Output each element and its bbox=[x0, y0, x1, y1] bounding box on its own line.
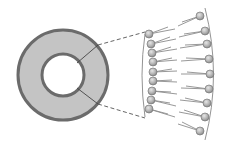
phospholipid-head bbox=[145, 30, 153, 38]
phospholipid-head bbox=[147, 96, 155, 104]
phospholipid-head bbox=[148, 49, 156, 57]
phospholipid-tails bbox=[149, 16, 210, 131]
phospholipid-head bbox=[201, 113, 209, 121]
phospholipid-head bbox=[203, 99, 211, 107]
inner-boundary-arc bbox=[142, 34, 145, 117]
diagram-canvas bbox=[0, 0, 228, 156]
phospholipid-head bbox=[205, 85, 213, 93]
inner-lumen bbox=[42, 54, 84, 96]
phospholipid-head bbox=[203, 40, 211, 48]
phospholipid-head bbox=[149, 68, 157, 76]
phospholipid-head bbox=[196, 12, 204, 20]
phospholipid-head bbox=[149, 77, 157, 85]
phospholipid-head bbox=[147, 40, 155, 48]
phospholipid-head bbox=[145, 105, 153, 113]
phospholipid-head bbox=[149, 58, 157, 66]
phospholipid-head bbox=[148, 87, 156, 95]
connector-top-dashed bbox=[98, 32, 145, 45]
phospholipid-head bbox=[206, 70, 214, 78]
phospholipid-head bbox=[201, 27, 209, 35]
connector-bottom-dashed bbox=[98, 104, 145, 118]
liposome-cross-section bbox=[18, 30, 108, 120]
liposome-diagram bbox=[0, 0, 228, 156]
phospholipid-head bbox=[205, 55, 213, 63]
phospholipid-head bbox=[196, 127, 204, 135]
